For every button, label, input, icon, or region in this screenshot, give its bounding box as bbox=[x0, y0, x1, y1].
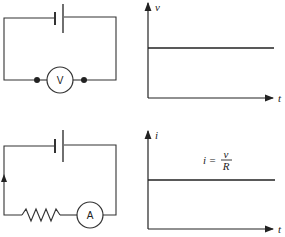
ammeter-icon: A bbox=[77, 202, 103, 228]
current-graph: i t i = v R bbox=[148, 129, 282, 235]
voltage-graph: v t bbox=[148, 1, 282, 104]
x-axis-label: t bbox=[278, 92, 282, 104]
y-axis-label: i bbox=[155, 129, 158, 141]
resistor-icon bbox=[22, 209, 60, 221]
equation-denominator: R bbox=[222, 160, 230, 172]
voltmeter-label: V bbox=[57, 75, 64, 86]
terminal-dot-left bbox=[34, 77, 40, 83]
ammeter-label: A bbox=[87, 210, 94, 221]
diagram-canvas: V v t A i t bbox=[0, 0, 285, 237]
equation-lhs: i = bbox=[203, 154, 216, 166]
wire-left bbox=[4, 146, 55, 215]
voltmeter-icon: V bbox=[47, 67, 73, 93]
ohms-law-equation: i = v R bbox=[203, 148, 232, 172]
voltmeter-circuit: V bbox=[4, 4, 116, 93]
battery-icon bbox=[55, 130, 63, 162]
equation-numerator: v bbox=[224, 148, 229, 160]
wire-right bbox=[64, 17, 116, 80]
battery-icon bbox=[55, 4, 63, 33]
current-arrow-icon bbox=[1, 174, 7, 182]
terminal-dot-right bbox=[81, 77, 87, 83]
ammeter-circuit: A bbox=[1, 130, 116, 228]
y-axis-label: v bbox=[155, 1, 160, 13]
wire-left bbox=[4, 18, 55, 80]
x-axis-label: t bbox=[278, 223, 282, 235]
